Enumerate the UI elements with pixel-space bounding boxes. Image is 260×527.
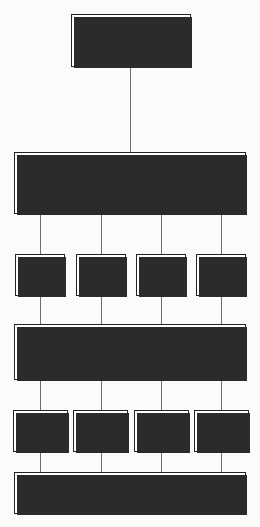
- node-separation-cyan-label: Cyan(blue): [152, 422, 171, 441]
- node-separation-cyan: Cyan(blue): [134, 410, 189, 452]
- connector-light-to-filter-gold: [221, 214, 222, 254]
- node-separation-yellow: Yellow: [13, 410, 68, 452]
- node-filtered-light-label: Filtered light trans-mitted from filtert…: [97, 337, 162, 367]
- node-light-transmitted-label: Light transmitted/reflected fromoriginal: [100, 168, 161, 198]
- node-filter-red: Redfilter: [136, 254, 186, 296]
- connector-filter-red-to-filtered: [161, 296, 162, 324]
- node-separation-black: Black: [194, 410, 249, 452]
- connector-light-to-filter-blue: [40, 214, 41, 254]
- connector-light-to-filter-green: [101, 214, 102, 254]
- connector-filtered-to-sep-magenta: [101, 380, 102, 410]
- node-filter-blue: Bluefilter: [15, 254, 65, 296]
- connector-sep-black-to-output: [221, 452, 222, 472]
- node-separation-magenta: Magenta(red): [73, 410, 128, 452]
- node-colour-original-label: Colouroriginal: [118, 31, 144, 51]
- connector-filter-blue-to-filtered: [40, 296, 41, 324]
- node-filter-gold: ‘Gold’filter: [196, 254, 246, 296]
- node-filtered-light: Filtered light trans-mitted from filtert…: [14, 324, 246, 380]
- node-separation-black-label: Black: [212, 426, 230, 435]
- node-colour-original: Colouroriginal: [71, 14, 191, 67]
- connector-light-to-filter-red: [161, 214, 162, 254]
- connector-filtered-to-sep-black: [221, 380, 222, 410]
- connector-filtered-to-sep-cyan: [161, 380, 162, 410]
- node-filter-blue-label: Bluefilter: [32, 266, 47, 285]
- connector-sep-magenta-to-output: [101, 452, 102, 472]
- node-separation-positives-label: Separation positivesor negatives: [96, 483, 164, 503]
- connector-filter-green-to-filtered: [101, 296, 102, 324]
- node-filter-green: Greenfilter: [76, 254, 126, 296]
- connector-sep-cyan-to-output: [161, 452, 162, 472]
- connector-sep-yellow-to-output: [40, 452, 41, 472]
- node-separation-yellow-label: Yellow: [29, 426, 51, 435]
- node-filter-green-label: Greenfilter: [91, 266, 110, 285]
- connector-filter-gold-to-filtered: [221, 296, 222, 324]
- node-separation-positives: Separation positivesor negatives: [14, 472, 246, 514]
- node-separation-magenta-label: Magenta(red): [87, 422, 114, 441]
- connector-filtered-to-sep-yellow: [40, 380, 41, 410]
- node-filter-red-label: Redfilter: [153, 266, 168, 285]
- node-filter-gold-label: ‘Gold’filter: [211, 266, 232, 285]
- node-light-transmitted: Light transmitted/reflected fromoriginal: [14, 152, 246, 214]
- connector-original-to-light: [130, 67, 131, 152]
- colour-separation-flowchart: Colouroriginal Light transmitted/reflect…: [0, 0, 260, 527]
